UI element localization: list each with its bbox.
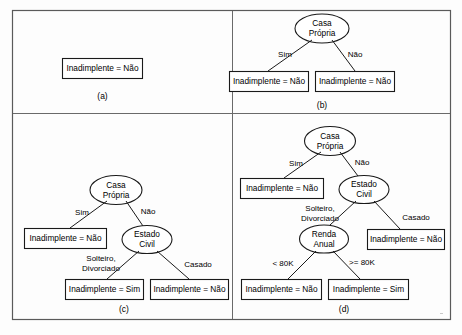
leaf-node-label-4: Inadimplente = Sim: [333, 284, 404, 294]
decision-node-label-line2: Anual: [313, 239, 334, 249]
decision-node-label-line1: Casa: [312, 18, 332, 28]
panel-d: Casa Própria Sim Não Inadimplente = Não …: [241, 127, 445, 315]
decision-node-label-line2: Própria: [103, 190, 130, 200]
panel-b: Casa Própria Sim Não Inadimplente = Não …: [230, 14, 395, 110]
leaf-node-label-3: Inadimplente = Não: [245, 284, 318, 294]
edge-label-gte-80k: >= 80K: [349, 258, 375, 267]
decision-node-label-line1: Estado: [351, 179, 377, 189]
panel-b-caption: (b): [317, 100, 328, 110]
edge-label-divorciado: Divorciado: [301, 214, 339, 223]
decision-node-label-line1: Casa: [106, 180, 126, 190]
decision-node-label-line1: Estado: [134, 229, 160, 239]
panel-a: Inadimplente = Não (a): [63, 59, 143, 102]
edge-label-nao: Não: [355, 158, 370, 167]
edge-label-sim: Sim: [278, 50, 292, 59]
decision-node-label-line2: Civil: [356, 189, 372, 199]
leaf-node-label-1: Inadimplente = Não: [29, 233, 102, 243]
edge-label-nao: Não: [141, 207, 156, 216]
edge-label-divorciado: Divorciado: [82, 264, 120, 273]
panel-a-caption: (a): [97, 91, 108, 101]
decision-tree-figure: Inadimplente = Não (a) Casa Própria Sim …: [0, 0, 462, 335]
decision-node-label-line2: Própria: [317, 141, 344, 151]
panel-d-caption: (d): [339, 304, 350, 314]
edge-label-sim: Sim: [289, 159, 303, 168]
decision-node-label-line2: Própria: [309, 28, 336, 38]
edge-label-sim: Sim: [75, 208, 89, 217]
edge-label-casado: Casado: [402, 213, 430, 222]
leaf-node-label-2: Inadimplente = Não: [370, 234, 443, 244]
panel-c-caption: (c): [119, 304, 129, 314]
edge-label-lt-80k: < 80K: [272, 259, 294, 268]
leaf-node-label-left: Inadimplente = Não: [233, 76, 306, 86]
edge-label-nao: Não: [348, 50, 363, 59]
decision-node-label-line1: Casa: [320, 131, 340, 141]
figure-canvas: Inadimplente = Não (a) Casa Própria Sim …: [0, 0, 462, 335]
leaf-node-label-1: Inadimplente = Não: [246, 183, 319, 193]
edge-label-solteiro: Solteiro,: [86, 254, 115, 263]
leaf-node-label-3: Inadimplente = Não: [153, 284, 226, 294]
scan-artifact: [440, 313, 443, 314]
leaf-node-label: Inadimplente = Não: [66, 63, 139, 73]
edge-casado: [374, 201, 400, 229]
edge-label-solteiro: Solteiro,: [305, 204, 334, 213]
decision-node-label-line1: Renda: [312, 229, 337, 239]
figure-frame: [13, 11, 451, 320]
edge-label-casado: Casado: [184, 260, 212, 269]
leaf-node-label-right: Inadimplente = Não: [319, 76, 392, 86]
panel-c: Casa Própria Sim Não Inadimplente = Não …: [25, 176, 229, 315]
decision-node-label-line2: Civil: [139, 239, 155, 249]
leaf-node-label-2: Inadimplente = Sim: [69, 284, 140, 294]
